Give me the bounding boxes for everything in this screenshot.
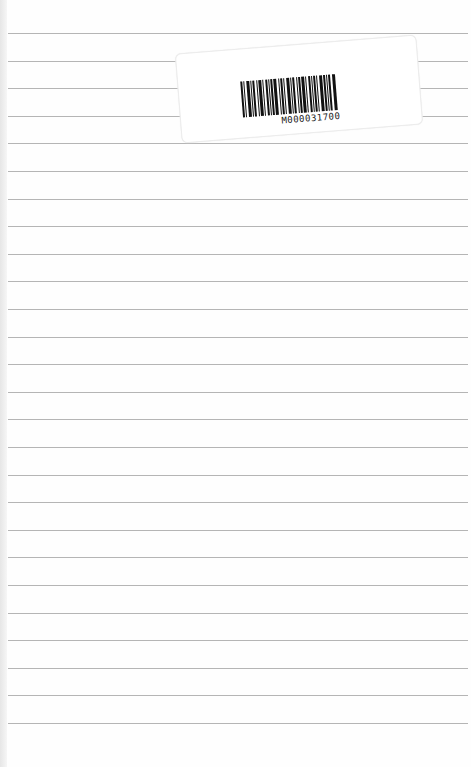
ruled-line (8, 143, 468, 144)
ruled-line (8, 695, 468, 696)
ruled-line (8, 281, 468, 282)
ruled-line (8, 254, 468, 255)
ruled-line (8, 475, 468, 476)
ruled-line (8, 171, 468, 172)
ruled-line (8, 226, 468, 227)
ruled-line (8, 337, 468, 338)
barcode-sticker: M000031700 (175, 35, 423, 144)
ruled-line (8, 199, 468, 200)
ruled-line (8, 557, 468, 558)
ruled-line (8, 723, 468, 724)
page-binding-edge (0, 0, 7, 767)
ruled-line (8, 640, 468, 641)
ruled-line (8, 33, 468, 34)
ruled-line (8, 447, 468, 448)
ruled-line (8, 530, 468, 531)
lined-page: M000031700 (0, 0, 471, 767)
ruled-line (8, 502, 468, 503)
ruled-line (8, 668, 468, 669)
ruled-line (8, 364, 468, 365)
ruled-line (8, 419, 468, 420)
ruled-line (8, 309, 468, 310)
ruled-line (8, 613, 468, 614)
ruled-line (8, 392, 468, 393)
barcode-icon (240, 71, 378, 118)
sticker-faint-label (183, 93, 219, 118)
ruled-line (8, 585, 468, 586)
